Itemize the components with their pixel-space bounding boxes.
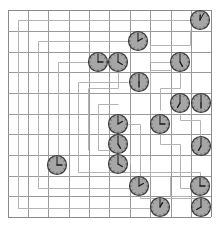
clock-icon[interactable] — [109, 115, 128, 134]
connector-path — [181, 114, 201, 137]
clock-icon[interactable] — [151, 115, 170, 134]
puzzle-grid — [0, 0, 220, 227]
connector-path — [151, 161, 191, 197]
clock-icon[interactable] — [151, 198, 170, 217]
clock-icon[interactable] — [130, 73, 149, 92]
clock-icon[interactable] — [89, 53, 108, 72]
clock-icon[interactable] — [171, 53, 190, 72]
connector-path — [59, 63, 89, 161]
clock-icon[interactable] — [109, 135, 128, 154]
clock-icon[interactable] — [130, 177, 149, 196]
clock-icon[interactable] — [109, 155, 128, 174]
clock-icon[interactable] — [191, 177, 210, 196]
clock-icon[interactable] — [171, 94, 190, 113]
clock-icon[interactable] — [191, 11, 210, 30]
clock-icon[interactable] — [192, 198, 211, 217]
connector-path — [161, 135, 191, 189]
clock-icon[interactable] — [48, 156, 67, 175]
clock-icon[interactable] — [192, 137, 211, 156]
clock-puzzle-board — [0, 0, 220, 227]
clock-icon[interactable] — [129, 32, 148, 51]
clock-icon[interactable] — [109, 53, 128, 72]
clock-icon[interactable] — [192, 94, 211, 113]
